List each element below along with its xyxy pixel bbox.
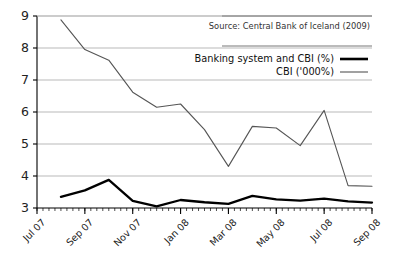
legend-label: CBI ('000%) (276, 66, 334, 77)
legend-label: Banking system and CBI (%) (195, 53, 334, 64)
y-tick-label: 8 (21, 40, 29, 55)
y-tick-label: 5 (21, 136, 29, 151)
y-tick-label: 7 (21, 72, 29, 87)
line-chart: 3456789 Jul 07Sep 07Nov 07Jan 08Mar 08Ma… (0, 0, 397, 261)
y-tick-label: 3 (21, 200, 29, 215)
y-tick-label: 9 (21, 8, 29, 23)
y-tick-label: 4 (21, 168, 29, 183)
chart-background (0, 0, 397, 261)
chart-canvas: 3456789 Jul 07Sep 07Nov 07Jan 08Mar 08Ma… (0, 0, 397, 261)
source-text: Source: Central Bank of Iceland (2009) (209, 21, 370, 31)
y-tick-label: 6 (21, 104, 29, 119)
